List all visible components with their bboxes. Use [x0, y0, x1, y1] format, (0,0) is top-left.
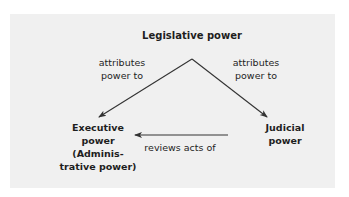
edge-label-line: attributes [221, 56, 291, 69]
node-judicial-line: power [250, 134, 320, 147]
node-legislative-line: Legislative power [142, 30, 242, 41]
edge-label-attributes-right: attributes power to [221, 56, 291, 82]
node-executive-line: power [53, 134, 143, 147]
edge-label-reviews-acts-of: reviews acts of [135, 141, 225, 154]
edge-label-line: attributes [87, 56, 157, 69]
node-executive-line: trative power) [53, 160, 143, 173]
edge-label-line: power to [221, 69, 291, 82]
edge-label-line: power to [87, 69, 157, 82]
node-executive-line: (Adminis- [53, 147, 143, 160]
node-executive-power: Executive power (Adminis- trative power) [53, 121, 143, 173]
edge-label-line: reviews acts of [144, 142, 215, 153]
edge-label-attributes-left: attributes power to [87, 56, 157, 82]
node-judicial-line: Judicial [250, 121, 320, 134]
node-judicial-power: Judicial power [250, 121, 320, 147]
node-legislative-power: Legislative power [132, 29, 252, 42]
node-executive-line: Executive [53, 121, 143, 134]
